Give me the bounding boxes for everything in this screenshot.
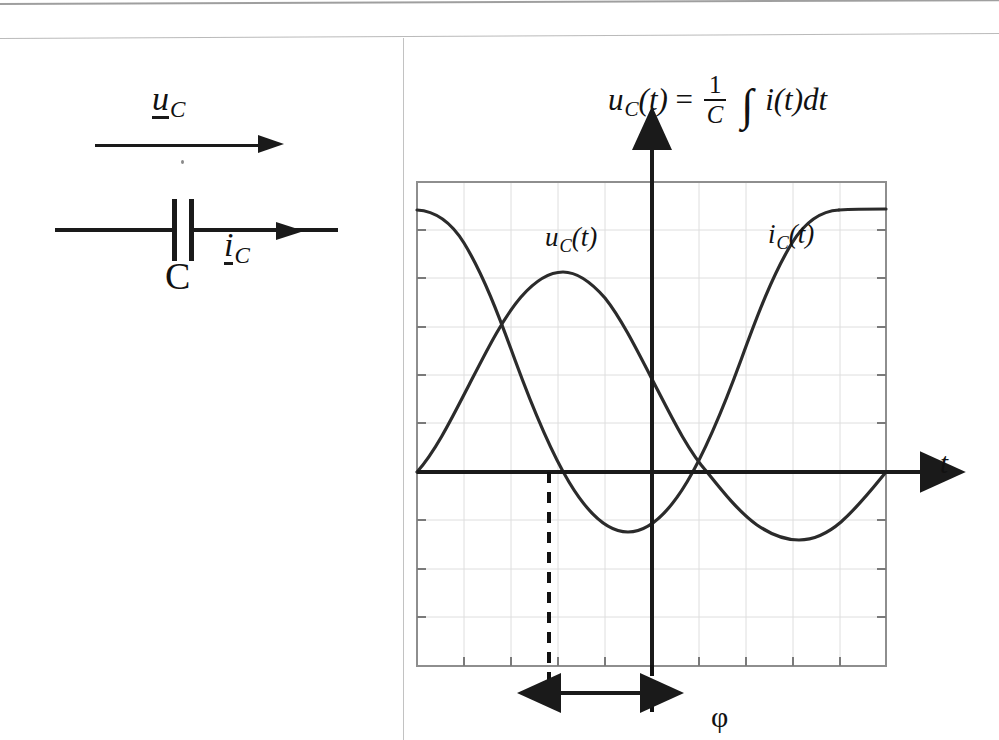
voltage-subscript: C: [169, 96, 185, 122]
current-symbol: i: [224, 229, 233, 265]
curve-label-ic: iC(t): [768, 219, 814, 254]
t-axis-label: t: [940, 447, 948, 480]
capacitor-plate-left: [172, 199, 177, 261]
current-subscript: C: [233, 242, 249, 268]
arrow-head-icon: [276, 222, 304, 240]
voltage-direction-arrow: [95, 141, 283, 149]
capacitor-label: C: [165, 254, 190, 298]
curve-uc-arg: (t): [572, 222, 597, 252]
scan-speck: [181, 160, 184, 164]
wire-left: [55, 228, 175, 232]
waveform-panel: uC(t) = 1 C ∫ i(t)dt: [403, 0, 999, 740]
curve-ic-main: i: [768, 219, 776, 249]
capacitor-circuit: uC C iC: [0, 38, 403, 338]
curve-ic-sub: C: [776, 233, 789, 253]
curve-ic: [417, 210, 839, 532]
curve-ic-tail: [839, 209, 886, 210]
phase-angle-label: φ: [711, 700, 728, 734]
waveform-graph: [403, 0, 999, 740]
current-direction-arrow: [276, 222, 336, 238]
curve-ic-arg: (t): [789, 219, 814, 249]
curve-uc-main: u: [545, 222, 559, 252]
current-phasor-label: iC: [224, 226, 250, 269]
curve-uc-sub: C: [559, 236, 572, 256]
arrow-shaft: [95, 144, 265, 147]
voltage-symbol: u: [152, 83, 169, 119]
voltage-phasor-label: uC: [152, 80, 185, 123]
figure-page: uC C iC uC(t) = 1 C ∫ i(t)dt: [0, 0, 999, 740]
arrow-head-icon: [258, 135, 284, 153]
curve-label-uc: uC(t): [545, 222, 597, 257]
